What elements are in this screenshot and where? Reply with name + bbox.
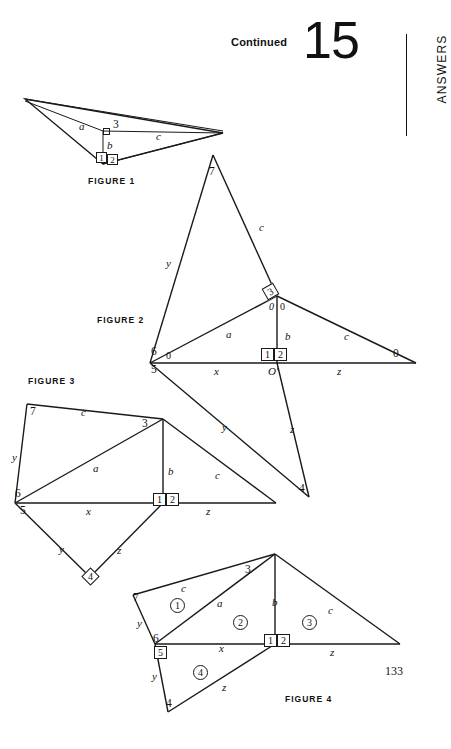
figure-1-caption: FIGURE 1 [88,176,135,186]
fig2-label-z-lower: z [290,424,294,435]
fig4-label-c-top: c [181,583,186,594]
page-number: 133 [385,664,403,679]
fig2-zero-at-6: 0 [166,351,171,361]
fig4-region-1: 1 [170,598,185,613]
fig4-vertex-4: 4 [166,698,172,710]
fig1-angle-2-label: 2 [110,155,115,165]
fig2-zero-left: 0 [269,302,274,312]
fig2-label-y-left: y [166,258,171,269]
fig2-angle-1-label: 1 [265,349,270,360]
fig1-angle-3: 3 [113,119,119,131]
fig2-label-c-right: c [344,331,349,342]
fig3-label-y-left: y [12,452,17,463]
fig2-label-a: a [226,329,232,340]
fig2-zero-right: 0 [280,302,285,312]
figure-1-geometry [25,99,223,164]
fig3-vertex-6: 6 [15,488,21,500]
fig3-label-x: x [86,506,91,517]
fig3-label-c-top: c [81,407,86,418]
fig1-angle-2-box: 2 [107,154,118,165]
fig4-label-a: a [217,598,223,609]
figure-3-caption: FIGURE 3 [28,376,75,386]
fig2-origin-label: O' [268,366,278,377]
fig4-region-4-label: 4 [198,667,203,678]
figure-4-caption: FIGURE 4 [285,694,332,704]
fig3-label-b: b [168,466,174,477]
fig4-angle-1-label: 1 [268,635,273,646]
fig1-angle-1-label: 1 [99,153,104,163]
fig1-label-b: b [107,140,113,151]
figure-3-geometry [15,404,276,577]
fig4-label-y-left: y [137,618,142,629]
fig4-region-1-label: 1 [175,600,180,611]
fig1-label-c: c [156,131,161,142]
fig1-angle-1-box: 1 [96,152,107,163]
figure-2-caption: FIGURE 2 [97,315,144,325]
fig3-angle-1-box: 1 [153,493,166,506]
fig3-angle-1-label: 1 [157,494,162,505]
fig2-zero-far-right: 0 [393,348,399,360]
fig2-angle-3-label: 3 [266,285,276,297]
fig1-right-angle-tick-top [103,128,110,135]
fig2-vertex-6: 6 [151,346,157,358]
fig2-vertex-7: 7 [209,166,215,178]
fig4-region-4: 4 [193,665,208,680]
fig4-label-b: b [272,597,278,608]
fig4-angle-3: 3 [245,564,251,576]
fig3-vertex-7: 7 [30,406,36,418]
fig4-region-2: 2 [233,615,248,630]
fig4-angle-5-box: 5 [154,646,167,659]
fig4-vertex-6: 6 [153,633,159,645]
fig3-angle-3: 3 [142,418,148,430]
fig3-angle-4-label: 4 [88,571,93,582]
fig4-region-3: 3 [302,615,317,630]
fig4-region-2-label: 2 [238,617,243,628]
fig1-label-a: a [79,121,85,132]
fig2-label-x: x [214,366,219,377]
fig3-label-a: a [93,463,99,474]
fig4-label-y-lower: y [152,671,157,682]
fig2-vertex-4: 4 [299,483,305,495]
fig3-label-z-base: z [206,506,210,517]
fig4-region-3-label: 3 [307,617,312,628]
figure-2-geometry [150,155,416,497]
fig4-label-c-right: c [328,605,333,616]
fig3-angle-2-box: 2 [166,493,179,506]
fig4-angle-1-box: 1 [264,634,277,647]
fig4-label-x: x [219,643,224,654]
fig3-angle-2-label: 2 [170,494,175,505]
fig4-label-z-base: z [330,647,334,658]
fig2-angle-2-box: 2 [274,348,287,361]
fig3-label-c-right: c [215,470,220,481]
fig2-label-c-upper: c [259,222,264,233]
fig3-label-z-lower: z [117,545,121,556]
fig4-angle-5-label: 5 [158,647,163,658]
fig3-vertex-5: 5 [20,505,26,517]
fig4-label-z-lower: z [222,682,226,693]
fig2-angle-1-box: 1 [261,348,274,361]
fig4-angle-2-label: 2 [281,635,286,646]
fig2-label-b: b [285,331,291,342]
figure-4-geometry [133,554,400,712]
fig2-vertex-5: 5 [151,364,157,376]
fig2-label-z-base: z [337,366,341,377]
fig4-angle-2-box: 2 [277,634,290,647]
fig3-label-y-lower: y [59,544,64,555]
fig4-vertex-7: 7 [133,592,139,604]
fig2-label-y-lower: y [222,422,227,433]
fig2-angle-2-label: 2 [278,349,283,360]
